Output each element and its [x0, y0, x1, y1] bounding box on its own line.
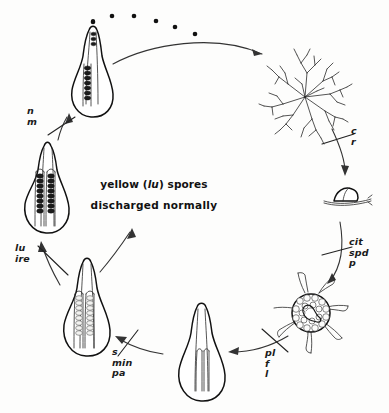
block-label-s-min-pa-line-0: s	[112, 346, 118, 357]
arrow-bottom-right	[228, 336, 288, 355]
block-bar-n-m	[48, 117, 75, 135]
stage-germinating-spore	[324, 188, 372, 205]
center-annotation-prefix: yellow (	[100, 178, 147, 190]
block-label-cit-spd-p-line-0: cit	[349, 236, 363, 247]
block-label-n-m-line-1: m	[27, 116, 37, 127]
block-label-s-min-pa-line-1: min	[112, 357, 133, 368]
block-label-c-r-line-0: c	[351, 125, 357, 136]
block-label-pl-f-l-line-2: l	[265, 368, 268, 379]
arrow-left-lower	[38, 241, 60, 285]
block-label-pl-f-l: pl f l	[265, 348, 275, 380]
mycelium-branches	[259, 49, 352, 144]
center-annotation-line-1: yellow (lu) spores	[84, 178, 224, 190]
block-label-s-min-pa: s min pa	[112, 347, 133, 379]
block-bar-lu-ire	[38, 246, 68, 275]
block-label-n-m: n m	[27, 106, 37, 127]
arrow-center-note	[100, 228, 136, 272]
block-label-n-m-line-0: n	[27, 105, 34, 116]
block-label-lu-ire-line-1: ire	[15, 253, 30, 264]
block-label-pl-f-l-line-0: pl	[265, 347, 275, 358]
stage-immature-ascospores	[64, 258, 110, 356]
center-annotation-suffix: ) spores	[159, 178, 208, 190]
block-label-lu-ire: lu ire	[15, 243, 30, 264]
block-label-cit-spd-p-line-1: spd	[349, 247, 369, 258]
center-annotation-line-2: discharged normally	[84, 199, 224, 211]
block-bar-cit-spd-p	[322, 247, 352, 255]
stage-mycelium	[259, 49, 352, 144]
block-label-cit-spd-p: cit spd p	[349, 237, 369, 269]
block-label-s-min-pa-line-2: pa	[112, 367, 126, 378]
center-annotation: yellow (lu) spores discharged normally	[84, 178, 224, 211]
life-cycle-diagram: n m lu ire s min pa pl f l c r cit spd p…	[0, 0, 389, 413]
block-label-c-r-line-1: r	[351, 136, 356, 147]
block-label-cit-spd-p-line-2: p	[349, 257, 356, 268]
block-label-pl-f-l-line-1: f	[265, 358, 269, 369]
arrow-top	[113, 43, 262, 64]
block-label-lu-ire-line-0: lu	[15, 242, 25, 253]
center-annotation-gene: lu	[148, 178, 159, 190]
stage-discharging-perithecium	[72, 19, 113, 117]
stage-protoperithecium	[274, 273, 348, 353]
block-label-c-r: c r	[351, 126, 357, 147]
stage-mature-ascospores	[25, 142, 69, 233]
spore-trail	[91, 14, 198, 37]
stage-young-perithecium	[179, 303, 225, 401]
